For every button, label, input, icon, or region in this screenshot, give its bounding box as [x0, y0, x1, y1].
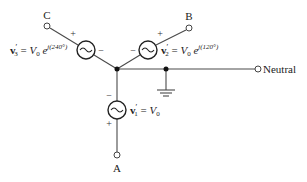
source-a-equals: = [138, 104, 150, 116]
source-b-plus: + [157, 28, 163, 39]
source-c-e: e [40, 44, 48, 56]
terminal-b-label: B [185, 10, 192, 22]
terminal-neutral-label: Neutral [263, 63, 296, 75]
ac-source-icon-c [77, 41, 95, 59]
ground-icon [157, 90, 175, 96]
source-b-e: e [191, 44, 199, 56]
terminal-neutral-icon[interactable] [255, 66, 261, 72]
terminal-b-icon[interactable] [186, 25, 192, 31]
source-b-equals: = [169, 44, 181, 56]
terminal-a-icon[interactable] [114, 152, 120, 158]
terminal-c-label: C [43, 9, 50, 21]
source-c-exp: j(240°) [46, 43, 68, 51]
source-c-equation: v′3 = V0 ej(240°) [10, 43, 68, 58]
terminal-c-icon[interactable] [44, 23, 50, 29]
source-a-plus: + [106, 118, 112, 129]
source-a-V-sub: 0 [156, 110, 160, 118]
source-b-exp: j(120°) [197, 43, 219, 51]
source-b-equation: v′2 = V0 ej(120°) [161, 43, 219, 58]
source-a-equation: v′1 = V0 [130, 103, 160, 118]
terminal-a-label: A [113, 162, 121, 174]
junction-dot-center [115, 67, 120, 72]
source-c-equals: = [18, 44, 30, 56]
circuit-diagram: C B A Neutral + − v′3 = V0 ej(240°) + − … [0, 0, 307, 182]
ac-source-icon-a [108, 101, 126, 119]
wire-source-c-to-node [94, 55, 117, 69]
source-c-minus: − [98, 45, 104, 56]
ac-source-icon-b [139, 41, 157, 59]
source-b-minus: − [130, 45, 136, 56]
junction-dot-ground [164, 67, 169, 72]
source-c-plus: + [70, 28, 76, 39]
source-a-minus: − [106, 90, 112, 101]
wire-source-b-to-node [117, 55, 140, 69]
